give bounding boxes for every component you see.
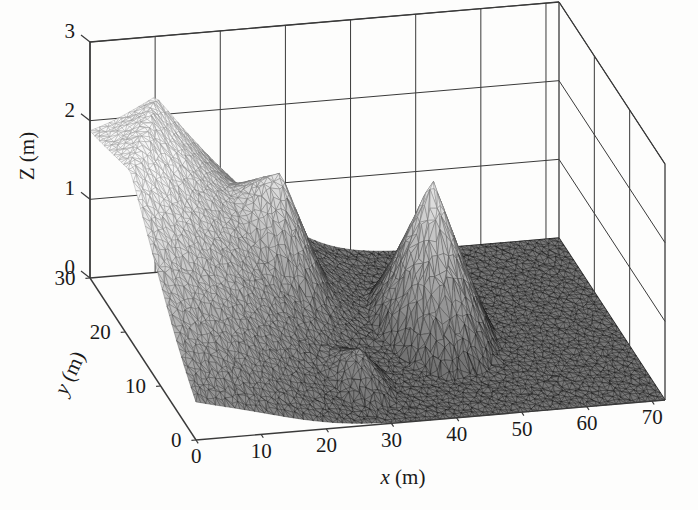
x-axis-label: x (m) [380, 465, 426, 489]
z-tick-label-0: 0 [65, 255, 76, 279]
y-tick-label-0: 0 [171, 428, 182, 452]
y-axis-label: y (m) [49, 347, 91, 400]
z-axis-label: Z (m) [15, 132, 39, 180]
surface-mesh [90, 98, 665, 424]
z-tick-label-1: 1 [65, 176, 76, 200]
z-tick-label-2: 2 [65, 98, 76, 122]
x-tick-label-50: 50 [511, 417, 532, 441]
x-tick-label-0: 0 [191, 444, 202, 468]
plot-canvas: 010203040506070x (m)0102030y (m)0123Z (m… [0, 0, 698, 510]
y-tick-label-20: 20 [90, 320, 111, 344]
y-tick-label-10: 10 [125, 374, 146, 398]
x-tick-label-20: 20 [316, 433, 337, 457]
x-tick-label-10: 10 [251, 439, 272, 463]
x-tick-label-60: 60 [577, 411, 598, 435]
x-tick-label-70: 70 [642, 405, 663, 429]
x-tick-label-40: 40 [446, 422, 467, 446]
x-tick-label-30: 30 [381, 428, 402, 452]
z-tick-label-3: 3 [65, 19, 76, 43]
surface-plot-figure: 010203040506070x (m)0102030y (m)0123Z (m… [0, 0, 698, 510]
